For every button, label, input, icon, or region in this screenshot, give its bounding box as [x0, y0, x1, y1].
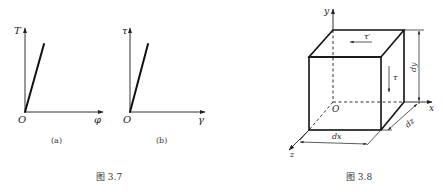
- cube-top-face: [309, 30, 404, 57]
- stress-strain-line: [130, 44, 148, 112]
- hidden-edge-z: [309, 102, 333, 130]
- dx-dimension-line: [300, 142, 367, 144]
- x-axis-label: x: [429, 103, 434, 113]
- dx-extension-left: [300, 130, 309, 140]
- figure-3-8-cube: y x z O τ′ τ dy dz dx: [289, 6, 434, 159]
- y-label-a: T: [14, 25, 22, 36]
- dz-label: dz: [403, 116, 417, 129]
- tau-prime-label: τ′: [364, 32, 370, 41]
- diagram-canvas: T O φ (a) τ O γ (b) 图 3.7 y x z O: [0, 0, 443, 192]
- figure-3-7-panel-a: T O φ (a): [14, 25, 103, 145]
- dx-extension-right: [367, 130, 381, 145]
- x-label-a: φ: [94, 114, 101, 125]
- dy-label: dy: [409, 62, 418, 72]
- z-axis-label: z: [289, 150, 295, 159]
- origin-label-cube: O: [332, 104, 340, 114]
- x-label-b: γ: [198, 114, 204, 125]
- origin-label-b: O: [123, 114, 131, 125]
- sub-caption-b: (b): [156, 136, 167, 145]
- torque-angle-line: [25, 44, 44, 112]
- dx-label: dx: [332, 132, 342, 141]
- figure-3-7-caption: 图 3.7: [96, 172, 122, 182]
- y-label-b: τ: [122, 25, 128, 36]
- sub-caption-a: (a): [51, 136, 62, 145]
- tau-label: τ: [393, 73, 398, 82]
- cube-front-face: [309, 57, 381, 130]
- y-axis-label: y: [323, 6, 330, 16]
- origin-label-a: O: [18, 114, 26, 125]
- figure-3-7-panel-b: τ O γ (b): [122, 25, 205, 145]
- figure-3-8-caption: 图 3.8: [346, 172, 372, 182]
